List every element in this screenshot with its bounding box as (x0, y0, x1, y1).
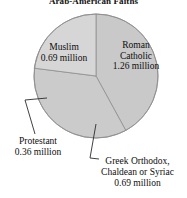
slice-label-roman-catholic-name-1: Roman (101, 40, 171, 51)
slice-label-greek-orthodox-name-2: Chaldean or Syriac (88, 167, 187, 178)
slice-label-protestant: Protestant 0.36 million (0, 136, 76, 158)
slice-label-protestant-value: 0.36 million (0, 147, 76, 158)
slice-label-greek-orthodox: Greek Orthodox, Chaldean or Syriac 0.69 … (88, 156, 187, 189)
slice-label-roman-catholic-value: 1.26 million (101, 61, 171, 72)
slice-label-roman-catholic: Roman Catholic 1.26 million (101, 40, 171, 72)
slice-label-muslim-name: Muslim (31, 42, 97, 53)
slice-label-greek-orthodox-name-1: Greek Orthodox, (88, 156, 187, 167)
pie-chart-figure: Arab-American Faiths Muslim 0.69 million… (0, 0, 187, 198)
slice-label-greek-orthodox-value: 0.69 million (88, 178, 187, 189)
slice-label-protestant-name: Protestant (0, 136, 76, 147)
slice-label-muslim: Muslim 0.69 million (31, 42, 97, 63)
slice-label-roman-catholic-name-2: Catholic (101, 51, 171, 62)
slice-label-muslim-value: 0.69 million (31, 53, 97, 64)
